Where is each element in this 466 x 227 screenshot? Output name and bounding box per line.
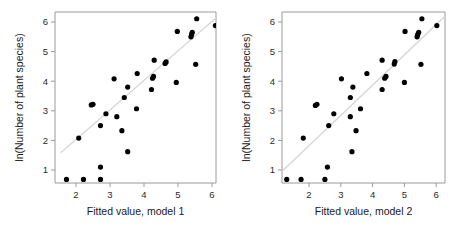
data-points-right [284, 16, 439, 182]
data-point [350, 85, 355, 90]
x-axis-title: Fitted value, model 1 [87, 205, 185, 217]
y-axis-title: ln(Number of plant species) [240, 33, 252, 161]
data-point [98, 177, 103, 182]
x-axis-left: 23456 [73, 183, 214, 200]
data-point [348, 95, 353, 100]
x-tick-label: 6 [434, 189, 439, 200]
y-tick-label: 2 [43, 135, 48, 146]
y-tick-label: 1 [43, 164, 48, 175]
panel-model-1: 12345623456Fitted value, model 1ln(Numbe… [0, 0, 233, 227]
data-points-left [64, 16, 218, 182]
y-tick-label: 1 [270, 164, 275, 175]
plot-canvas-right: 12345623456Fitted value, model 2ln(Numbe… [233, 0, 466, 227]
panel-model-2: 12345623456Fitted value, model 2ln(Numbe… [233, 0, 466, 227]
y-tick-label: 4 [270, 76, 275, 87]
data-point [358, 106, 363, 111]
y-axis-left: 123456 [43, 16, 55, 175]
data-point [322, 177, 327, 182]
data-point [81, 177, 86, 182]
data-point [98, 164, 103, 169]
data-point [402, 29, 407, 34]
data-point [134, 106, 139, 111]
y-tick-label: 4 [43, 76, 48, 87]
data-point [164, 59, 169, 64]
y-axis-right: 123456 [270, 16, 282, 175]
data-point [298, 177, 303, 182]
plot-canvas-left: 12345623456Fitted value, model 1ln(Numbe… [0, 0, 233, 227]
data-point [194, 16, 199, 21]
data-point [111, 76, 116, 81]
data-point [175, 29, 180, 34]
y-tick-label: 5 [270, 46, 275, 57]
data-point [64, 177, 69, 182]
fit-line [283, 16, 445, 171]
fit-line [61, 13, 223, 153]
data-point [392, 59, 397, 64]
x-tick-label: 2 [306, 189, 311, 200]
y-tick-label: 5 [43, 46, 48, 57]
data-point [434, 23, 439, 28]
x-tick-label: 2 [73, 189, 78, 200]
data-point [419, 16, 424, 21]
data-point [325, 164, 330, 169]
data-point [402, 80, 407, 85]
data-point [193, 62, 198, 67]
x-tick-label: 4 [141, 189, 146, 200]
data-point [125, 149, 130, 154]
x-tick-label: 3 [338, 189, 343, 200]
y-tick-label: 3 [270, 105, 275, 116]
y-tick-label: 6 [270, 16, 275, 27]
data-point [348, 114, 353, 119]
data-point [90, 102, 95, 107]
x-tick-label: 4 [370, 189, 375, 200]
data-point [98, 123, 103, 128]
data-point [339, 76, 344, 81]
data-point [353, 128, 358, 133]
x-tick-label: 5 [402, 189, 407, 200]
data-point [301, 135, 306, 140]
y-tick-label: 2 [270, 135, 275, 146]
data-point [213, 23, 218, 28]
x-tick-label: 6 [209, 189, 214, 200]
data-point [152, 58, 157, 63]
data-point [416, 30, 421, 35]
data-point [174, 80, 179, 85]
x-axis-right: 23456 [306, 183, 438, 200]
data-point [190, 30, 195, 35]
x-tick-label: 5 [175, 189, 180, 200]
data-point [151, 74, 156, 79]
data-point [326, 123, 331, 128]
y-axis-title: ln(Number of plant species) [13, 33, 25, 161]
data-point [135, 71, 140, 76]
data-point [380, 58, 385, 63]
data-point [380, 87, 385, 92]
y-tick-label: 6 [43, 16, 48, 27]
data-point [284, 177, 289, 182]
plot-frame [282, 12, 445, 183]
data-point [383, 74, 388, 79]
data-point [314, 102, 319, 107]
data-point [331, 111, 336, 116]
data-point [119, 128, 124, 133]
data-point [122, 95, 127, 100]
scatter-plot-figure: 12345623456Fitted value, model 1ln(Numbe… [0, 0, 466, 227]
y-tick-label: 3 [43, 105, 48, 116]
data-point [149, 87, 154, 92]
data-point [125, 85, 130, 90]
x-axis-title: Fitted value, model 2 [315, 205, 413, 217]
x-tick-label: 3 [107, 189, 112, 200]
data-point [364, 71, 369, 76]
data-point [349, 149, 354, 154]
data-point [76, 135, 81, 140]
data-point [418, 62, 423, 67]
data-point [114, 114, 119, 119]
data-point [103, 111, 108, 116]
